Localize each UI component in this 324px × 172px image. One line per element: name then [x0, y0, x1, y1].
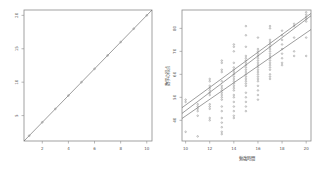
data-point [269, 25, 271, 27]
data-point [245, 62, 247, 64]
y-tick-label: 50 [172, 94, 177, 100]
y-axis-label: 数学の得点 [164, 66, 171, 86]
data-point [245, 78, 247, 80]
data-point [293, 55, 295, 57]
data-point [305, 21, 307, 23]
y-tick-label: 70 [172, 48, 177, 54]
data-point [221, 110, 223, 112]
data-point [269, 28, 271, 30]
data-point [257, 37, 259, 39]
data-point [221, 122, 223, 124]
data-point [257, 69, 259, 71]
y-tick-label: 40 [172, 117, 177, 123]
y-tick-label: 80 [172, 25, 177, 31]
y-tick-label: 60 [172, 71, 177, 77]
data-point [245, 110, 247, 112]
data-point [257, 64, 259, 66]
data-point [233, 62, 235, 64]
data-point [221, 117, 223, 119]
data-point [221, 80, 223, 82]
data-point [269, 69, 271, 71]
data-point [221, 85, 223, 87]
x-tick-label: 12 [207, 146, 213, 151]
data-point [245, 46, 247, 48]
x-axis-label: 勉強時間 [239, 155, 255, 162]
data-point [245, 69, 247, 71]
data-point [209, 78, 211, 80]
data-point [209, 117, 211, 119]
data-point [233, 80, 235, 82]
data-point [257, 90, 259, 92]
data-point [221, 71, 223, 73]
data-point [305, 37, 307, 39]
data-point [233, 46, 235, 48]
data-point [245, 34, 247, 36]
data-point [281, 64, 283, 66]
data-point [269, 67, 271, 69]
data-point [245, 97, 247, 99]
data-point [269, 55, 271, 57]
data-point [221, 92, 223, 94]
data-point [209, 94, 211, 96]
data-point [269, 41, 271, 43]
data-point [233, 87, 235, 89]
data-point [269, 44, 271, 46]
data-point [197, 108, 199, 110]
data-point [281, 30, 283, 32]
data-point [233, 67, 235, 69]
data-point [257, 48, 259, 50]
data-point [221, 99, 223, 101]
data-point [281, 53, 283, 55]
data-point [185, 99, 187, 101]
data-point [269, 64, 271, 66]
data-point [233, 97, 235, 99]
data-point [281, 44, 283, 46]
data-point [245, 85, 247, 87]
data-point [257, 60, 259, 62]
data-point [197, 103, 199, 105]
data-point [245, 92, 247, 94]
data-point [221, 97, 223, 99]
data-point [245, 71, 247, 73]
data-point [245, 55, 247, 57]
data-point [233, 51, 235, 53]
data-point [233, 106, 235, 108]
data-point [185, 101, 187, 103]
data-point [257, 57, 259, 59]
data-point [305, 14, 307, 16]
data-point [257, 99, 259, 101]
data-point [257, 67, 259, 69]
data-point [269, 51, 271, 53]
data-point [269, 62, 271, 64]
data-point [257, 78, 259, 80]
data-point [305, 11, 307, 13]
data-point [245, 80, 247, 82]
data-point [221, 133, 223, 135]
data-point [197, 136, 199, 138]
data-point [209, 120, 211, 122]
data-point [257, 53, 259, 55]
data-point [221, 87, 223, 89]
data-point [245, 83, 247, 85]
data-point [221, 126, 223, 128]
data-point [245, 101, 247, 103]
x-tick-label: 10 [183, 146, 189, 151]
data-point [257, 94, 259, 96]
data-point [293, 51, 295, 53]
chart-figure: 2468105101520 1012141618204050607080勉強時間… [0, 0, 324, 172]
data-point [233, 76, 235, 78]
data-point [221, 62, 223, 64]
data-point [233, 44, 235, 46]
data-point [221, 94, 223, 96]
data-point [233, 101, 235, 103]
data-point [221, 69, 223, 71]
data-point [197, 106, 199, 108]
data-point [233, 117, 235, 119]
x-tick-label: 20 [304, 146, 310, 151]
data-point [245, 25, 247, 27]
data-point [257, 76, 259, 78]
data-point [281, 62, 283, 64]
data-point [221, 106, 223, 108]
data-point [209, 85, 211, 87]
data-point [305, 55, 307, 57]
